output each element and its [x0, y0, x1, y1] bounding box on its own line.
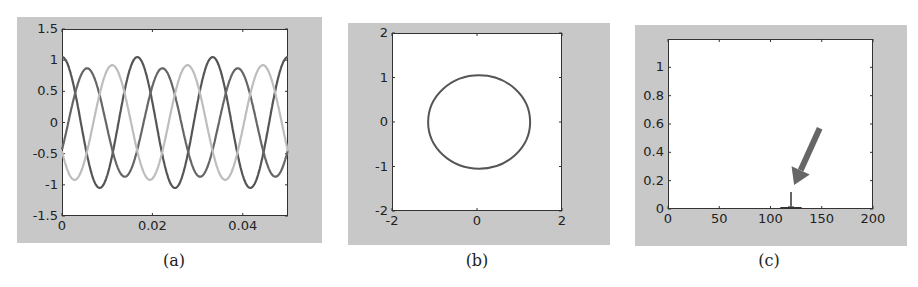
trajectory-ellipse — [428, 75, 530, 168]
arrow-shaft — [801, 128, 820, 170]
sine-wave-line — [62, 68, 288, 176]
chart-overlay — [0, 0, 918, 287]
